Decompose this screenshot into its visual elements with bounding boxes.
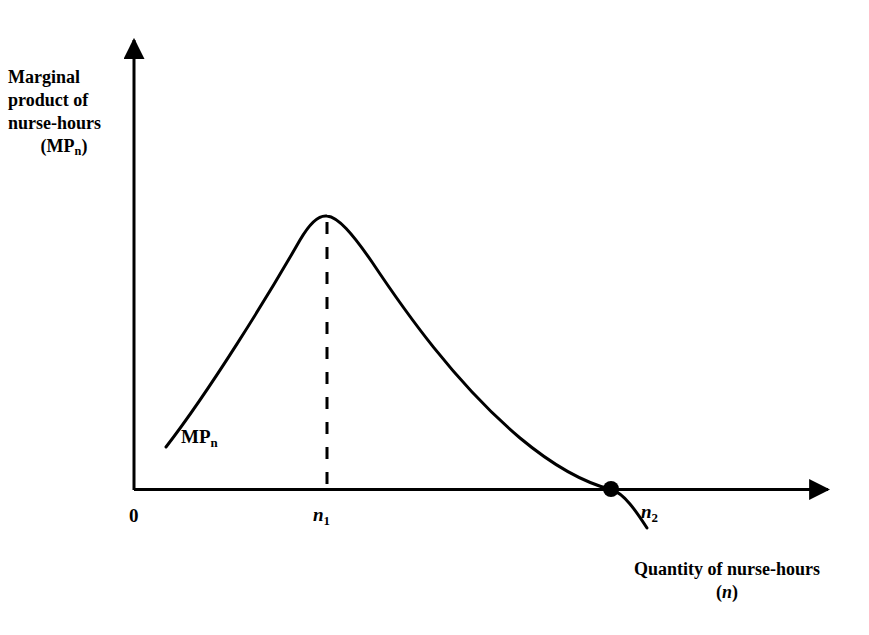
- marginal-product-curve: [166, 216, 647, 528]
- n2-subscript: 2: [652, 510, 658, 525]
- y-axis-symbol-close: ): [81, 136, 87, 156]
- n1-subscript: 1: [324, 513, 330, 528]
- x-tick-label-n1: n1: [313, 503, 330, 527]
- figure-canvas: Marginal product of nurse-hours (MPn) Qu…: [0, 0, 869, 635]
- n2-base: n: [641, 501, 652, 522]
- y-axis-title-symbol: (MPn): [8, 135, 120, 158]
- x-axis-symbol-close: ): [732, 582, 738, 602]
- y-axis-symbol-base: (MP: [41, 136, 75, 156]
- x-tick-label-n2: n2: [641, 500, 658, 524]
- x-axis-symbol-italic: n: [722, 582, 732, 602]
- curve-label-base: MP: [181, 426, 211, 447]
- x-axis-title-symbol: (n): [716, 582, 738, 602]
- chart-plot-area: [0, 0, 869, 635]
- y-axis-title-line-2: product of: [8, 90, 88, 110]
- curve-label-mpn: MPn: [181, 425, 218, 449]
- zero-crossing-dot: [603, 481, 619, 497]
- origin-label: 0: [129, 504, 139, 528]
- x-axis-title-line-1: Quantity of nurse-hours: [634, 559, 820, 579]
- y-axis-title-line-3: nurse-hours: [8, 113, 101, 133]
- curve-label-subscript: n: [211, 435, 218, 450]
- y-axis-title: Marginal product of nurse-hours (MPn): [8, 66, 120, 158]
- y-axis-title-line-1: Marginal: [8, 67, 80, 87]
- n1-base: n: [313, 504, 324, 525]
- x-axis-title: Quantity of nurse-hours (n): [596, 558, 858, 604]
